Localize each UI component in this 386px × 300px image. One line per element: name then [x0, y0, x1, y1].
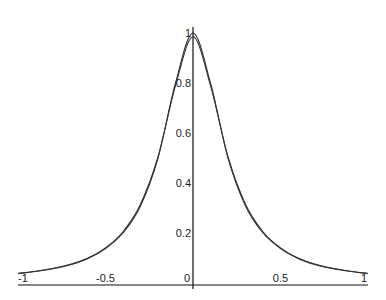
y-tick-label: 1: [185, 27, 191, 39]
x-tick-label: -1: [18, 272, 28, 284]
x-tick-label: 0: [184, 272, 190, 284]
line-chart: -1-0.500.51 0.20.40.60.81: [0, 0, 386, 300]
x-tick-label: -0.5: [96, 272, 115, 284]
y-tick-label: 0.2: [176, 227, 191, 239]
y-tick-label: 0.6: [176, 127, 191, 139]
x-tick-label: 1: [361, 272, 367, 284]
x-tick-label: 0.5: [273, 272, 288, 284]
y-tick-label: 0.8: [176, 77, 191, 89]
y-tick-label: 0.4: [176, 177, 191, 189]
